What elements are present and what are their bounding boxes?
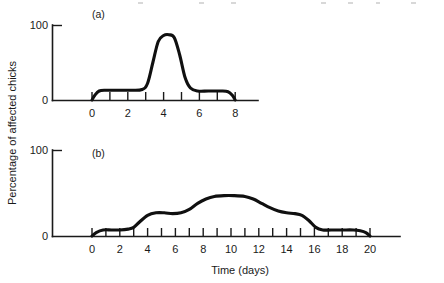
panel-a-xtick-label-0: 0 <box>89 107 95 119</box>
panel-a-xtick-label-2: 2 <box>125 107 131 119</box>
panel-b-xtick-label-6: 6 <box>172 243 178 255</box>
panel-a-xtick-label-6: 6 <box>196 107 202 119</box>
panel-b-xtick-label-8: 8 <box>200 243 206 255</box>
panel-a-label: (a) <box>92 8 105 20</box>
panel-a-xtick-label-4: 4 <box>161 107 167 119</box>
panel-b-xtick-label-0: 0 <box>89 243 95 255</box>
panel-a: (a) 0 100 0 2 <box>30 8 258 119</box>
panel-b-xtick-label-14: 14 <box>280 243 292 255</box>
chart-canvas: Percentage of affected chicks (a) 0 100 <box>0 0 444 283</box>
panel-b-xtick-label-12: 12 <box>253 243 265 255</box>
panel-b-xtick-label-10: 10 <box>225 243 237 255</box>
panel-a-ytick-label-100: 100 <box>30 19 48 31</box>
panel-b-xtick-label-4: 4 <box>145 243 151 255</box>
panel-a-data-curve <box>92 35 235 100</box>
chart-figure: Percentage of affected chicks (a) 0 100 <box>0 0 444 283</box>
y-axis-title: Percentage of affected chicks <box>6 60 18 205</box>
panel-b-xtick-label-18: 18 <box>336 243 348 255</box>
scan-artifacts <box>138 2 416 4</box>
x-axis-title: Time (days) <box>211 264 269 276</box>
panel-a-xtick-label-8: 8 <box>232 107 238 119</box>
panel-a-ytick-label-0: 0 <box>42 94 48 106</box>
panel-b: (b) 0 100 <box>30 144 400 255</box>
panel-b-xtick-label-2: 2 <box>117 243 123 255</box>
panel-b-xtick-label-16: 16 <box>308 243 320 255</box>
panel-b-label: (b) <box>92 147 105 159</box>
panel-a-x-ticks <box>92 92 235 100</box>
panel-b-xtick-label-20: 20 <box>364 243 376 255</box>
panel-b-ytick-label-0: 0 <box>42 230 48 242</box>
panel-b-ytick-label-100: 100 <box>30 144 48 156</box>
